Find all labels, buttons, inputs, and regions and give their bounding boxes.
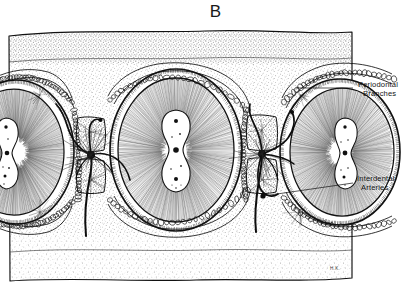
artist-signature: H.K.	[330, 266, 340, 271]
callout-periodontal-line2: Branches	[358, 89, 398, 98]
figure-canvas: B	[0, 0, 418, 289]
callout-periodontal-line1: Periodontal	[358, 80, 398, 89]
callout-periodontal-branches: Periodontal Branches	[358, 80, 398, 98]
anatomical-illustration	[0, 0, 418, 289]
callout-interdental-line1: Interdental	[357, 174, 395, 183]
callout-interdental-arteries: Interdental Arteries	[357, 174, 395, 192]
callout-interdental-line2: Arteries	[357, 183, 395, 192]
